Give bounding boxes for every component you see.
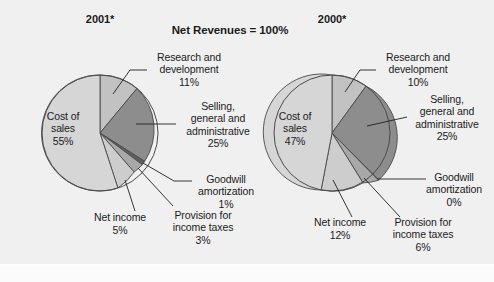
label-2000-provision: Provision for income taxes	[382, 216, 464, 241]
label-2000-goodwill: Goodwill amortization	[414, 171, 494, 196]
label-2001-net-income: Net income	[83, 211, 157, 223]
label-2001-goodwill: Goodwill amortization	[186, 173, 266, 198]
label-2001-research: Research and development	[140, 51, 238, 76]
value-2000-goodwill: 0%	[414, 196, 494, 208]
label-2000-cost-of-sales: Cost of sales	[266, 110, 324, 135]
label-2000-sga: Selling, general and administrative	[405, 93, 489, 130]
leader-2001-provision	[138, 168, 173, 206]
leader-2000-provision	[364, 178, 400, 217]
figure-title: Net Revenues = 100%	[155, 24, 305, 36]
label-2001-cost-of-sales: Cost of sales	[34, 110, 92, 135]
value-2000-net-income: 12%	[303, 229, 377, 241]
label-2001-provision: Provision for income taxes	[162, 209, 244, 234]
label-2000-net-income: Net income	[303, 216, 377, 228]
value-2001-cost-of-sales: 55%	[34, 135, 92, 147]
value-2001-provision: 3%	[162, 234, 244, 246]
panel-heading-2000: 2000*	[292, 13, 372, 25]
figure-container: Net Revenues = 100% 2001* 2000* Cost of …	[0, 0, 494, 282]
label-2000-research: Research and development	[369, 51, 467, 76]
value-2000-cost-of-sales: 47%	[266, 135, 324, 147]
value-2000-provision: 6%	[382, 241, 464, 253]
value-2000-research: 10%	[369, 76, 467, 88]
leader-2001-netincome	[125, 180, 135, 211]
label-2001-sga: Selling, general and administrative	[176, 100, 260, 137]
value-2001-net-income: 5%	[83, 224, 157, 236]
value-2001-sga: 25%	[176, 137, 260, 149]
value-2000-sga: 25%	[405, 130, 489, 142]
value-2001-research: 11%	[140, 76, 238, 88]
leader-2001-goodwill	[143, 163, 192, 181]
panel-heading-2001: 2001*	[60, 13, 140, 25]
